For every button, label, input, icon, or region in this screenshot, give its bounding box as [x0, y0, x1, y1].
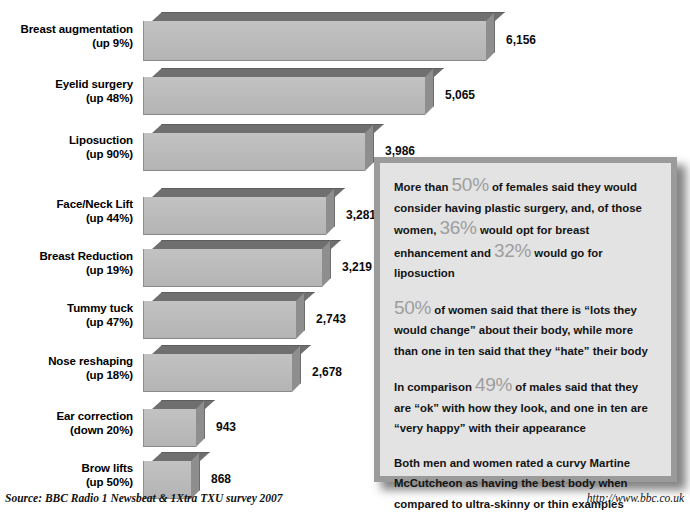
category-label: Breast augmentation(up 9%) — [0, 23, 133, 50]
category-name: Brow lifts — [82, 462, 133, 474]
bar-value-label: 3,986 — [385, 144, 415, 158]
bar-value-label: 6,156 — [506, 33, 536, 47]
bar — [143, 400, 196, 447]
category-name: Face/Neck Lift — [56, 198, 133, 210]
category-label: Tummy tuck(up 47%) — [0, 302, 133, 329]
category-change: (up 18%) — [0, 369, 133, 383]
bar-side-face — [326, 188, 335, 235]
bar-top-face — [152, 400, 215, 409]
bar-top-face — [152, 452, 210, 461]
category-change: (down 20%) — [0, 424, 133, 438]
info-paragraph: More than 50% of females said they would… — [394, 175, 657, 284]
bar-value-label: 3,219 — [342, 260, 372, 274]
category-change: (up 90%) — [0, 148, 133, 162]
category-change: (up 48%) — [0, 92, 133, 106]
bar — [143, 124, 365, 171]
percentage-figure: 49% — [475, 374, 512, 395]
bar-value-label: 3,281 — [346, 208, 376, 222]
bar — [143, 68, 425, 115]
category-name: Tummy tuck — [67, 302, 133, 314]
bar — [143, 188, 326, 235]
bar-top-face — [152, 292, 315, 301]
info-paragraph: In comparison 49% of males said that the… — [394, 375, 657, 439]
source-url: http://www.bbc.co.uk — [587, 492, 684, 504]
bar — [143, 12, 486, 61]
bar-front-face — [143, 301, 296, 339]
category-label: Eyelid surgery(up 48%) — [0, 78, 133, 105]
category-label: Nose reshaping(up 18%) — [0, 355, 133, 382]
bar-front-face — [143, 21, 486, 61]
category-label: Brow lifts(up 50%) — [0, 462, 133, 489]
category-name: Breast Reduction — [39, 250, 133, 262]
bar-value-label: 943 — [216, 420, 236, 434]
percentage-figure: 36% — [440, 217, 477, 238]
bar-front-face — [143, 409, 196, 447]
category-name: Liposuction — [69, 134, 133, 146]
bar-value-label: 868 — [211, 472, 231, 486]
bar-front-face — [143, 77, 425, 115]
percentage-figure: 50% — [394, 297, 431, 318]
category-change: (up 44%) — [0, 212, 133, 226]
bar-top-face — [152, 68, 444, 77]
bar-side-face — [486, 12, 495, 61]
category-label: Breast Reduction(up 19%) — [0, 250, 133, 277]
category-label: Face/Neck Lift(up 44%) — [0, 198, 133, 225]
bar-top-face — [152, 124, 384, 133]
category-name: Eyelid surgery — [55, 78, 133, 90]
info-text: More than — [394, 181, 452, 193]
category-change: (up 50%) — [0, 476, 133, 490]
info-panel-text: More than 50% of females said they would… — [380, 163, 671, 476]
bar-front-face — [143, 133, 365, 171]
category-change: (up 47%) — [0, 316, 133, 330]
category-change: (up 9%) — [0, 37, 133, 51]
source-caption: Source: BBC Radio 1 Newsbeat & 1Xtra TXU… — [5, 492, 283, 504]
bar-top-face — [152, 345, 311, 354]
bar — [143, 240, 322, 287]
bar — [143, 292, 296, 339]
bar-top-face — [152, 12, 505, 21]
bar-side-face — [296, 292, 305, 339]
category-name: Ear correction — [56, 410, 133, 422]
bar-side-face — [322, 240, 331, 287]
bar-side-face — [425, 68, 434, 115]
percentage-figure: 50% — [452, 174, 489, 195]
category-name: Nose reshaping — [48, 355, 133, 367]
percentage-figure: 32% — [494, 240, 531, 261]
bar-side-face — [196, 400, 205, 447]
bar-top-face — [152, 188, 345, 197]
bar-top-face — [152, 240, 341, 249]
category-label: Ear correction(down 20%) — [0, 410, 133, 437]
bar-value-label: 2,743 — [316, 312, 346, 326]
bar — [143, 345, 292, 392]
info-panel: More than 50% of females said they would… — [374, 157, 677, 482]
info-paragraph: 50% of women said that there is “lots th… — [394, 298, 657, 362]
bar-front-face — [143, 354, 292, 392]
bar-side-face — [292, 345, 301, 392]
info-text: In comparison — [394, 381, 475, 393]
bar-value-label: 2,678 — [312, 365, 342, 379]
bar-side-face — [365, 124, 374, 171]
category-name: Breast augmentation — [21, 23, 133, 35]
bar-front-face — [143, 249, 322, 287]
bar-front-face — [143, 197, 326, 235]
info-text: of women said that there is “lots they w… — [394, 304, 648, 357]
category-change: (up 19%) — [0, 264, 133, 278]
bar-value-label: 5,065 — [445, 88, 475, 102]
category-label: Liposuction(up 90%) — [0, 134, 133, 161]
